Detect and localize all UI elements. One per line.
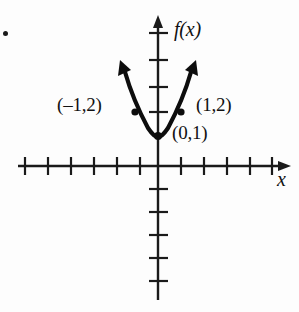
coordinate-plane-graph <box>0 0 299 312</box>
figure-canvas: (–1,2) (1,2) (0,1) f(x) x <box>0 0 299 312</box>
point-marker-vertex-0-1 <box>154 132 162 140</box>
x-axis-label: x <box>277 168 286 191</box>
point-marker-pos1-2 <box>177 108 184 115</box>
point-label-vertex-0-1: (0,1) <box>172 122 207 144</box>
y-axis-label: f(x) <box>174 18 201 41</box>
point-marker-neg1-2 <box>131 108 138 115</box>
point-label-pos1-2: (1,2) <box>196 94 231 116</box>
y-axis-arrow-icon <box>153 15 163 28</box>
point-label-neg1-2: (–1,2) <box>57 94 102 116</box>
